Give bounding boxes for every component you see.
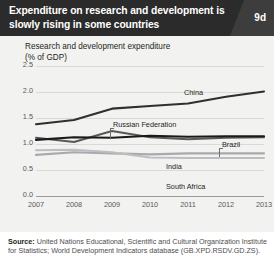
y-axis-tick-label: 2.0 [23,86,33,95]
chart-panel: Research and development expenditure (% … [0,36,274,232]
badge-panel [230,0,274,36]
series-lines [36,66,264,196]
source-text: United Nations Educational, Scientific a… [8,237,267,255]
y-axis-tick-label: 0.5 [23,164,33,173]
x-axis-tick-label: 2012 [218,200,234,209]
footer-divider [0,232,274,233]
title-bar: Expenditure on research and development … [0,0,274,36]
series-line-india [36,152,264,155]
y-axis-tick-label: 1.5 [23,112,33,121]
leader-line-tick [219,148,223,149]
x-axis-tick-label: 2013 [256,200,272,209]
gridline: 0.0 [36,196,264,197]
y-axis-tick-label: 2.5 [23,60,33,69]
leader-line [110,128,111,138]
chart-subtitle: Research and development expenditure (% … [25,42,170,63]
x-axis-tick-label: 2009 [104,200,120,209]
y-axis-tick-label: 0.0 [23,190,33,199]
series-label-china: China [184,88,203,97]
chart-subtitle-line1: Research and development expenditure [25,42,170,53]
x-axis-tick-label: 2010 [142,200,158,209]
x-axis-tick-label: 2007 [28,200,44,209]
leader-line [219,148,220,157]
figure-panel: Expenditure on research and development … [0,0,274,266]
source-note: Source: United Nations Educational, Scie… [8,238,270,256]
y-axis-tick-label: 1.0 [23,138,33,147]
plot-area: 2.52.01.51.00.50.0 200720082009201020112… [36,66,264,196]
series-label-india: India [166,162,182,171]
chart-subtitle-line2: (% of GDP) [25,53,170,64]
x-axis-tick-label: 2008 [66,200,82,209]
x-axis-tick-label: 2011 [180,200,196,209]
series-label-russian-federation: Russian Federation [113,120,176,129]
figure-number-badge: 9d [254,12,266,23]
series-label-south-africa: South Africa [166,182,205,191]
leader-line-tick [110,128,114,129]
source-label: Source: [8,237,35,246]
series-label-brazil: Brazil [222,140,240,149]
page-title: Expenditure on research and development … [9,4,231,31]
